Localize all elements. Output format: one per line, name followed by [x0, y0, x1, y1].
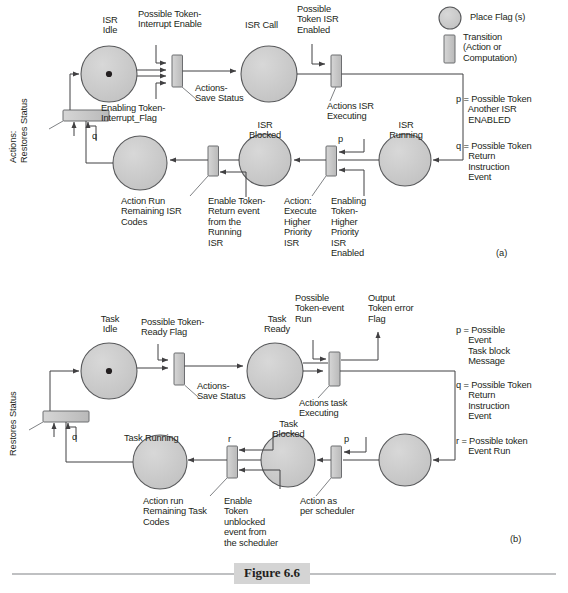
transition-interrupt-enable [172, 55, 183, 87]
transition-unblocked [227, 446, 238, 478]
label-possible-token-isr-enabled: Possible Token ISR Enabled [297, 4, 339, 35]
label-action-as-per-scheduler: Action as per scheduler [300, 496, 354, 517]
label-enable-token-unblocked: Enable Token unblocked event from the sc… [224, 496, 278, 548]
figure-page: ISR Idle Possible Token- Interrupt Enabl… [0, 0, 568, 593]
place-isr-remaining [113, 136, 167, 190]
place-task-exec-right [379, 434, 431, 486]
transition-task-executing [329, 352, 340, 386]
label-q-marker-b: q [72, 432, 77, 442]
label-possible-token-interrupt-enable: Possible Token- Interrupt Enable [138, 9, 202, 30]
label-task-ready: Task Ready [257, 314, 297, 335]
label-task-running: Task Running [124, 433, 179, 443]
legend-transition-label: Transition (Action or Computation) [463, 32, 517, 63]
place-isr-running [379, 134, 431, 186]
place-isr-idle [81, 46, 137, 102]
place-task-ready [247, 343, 303, 399]
transition-return-event [208, 146, 219, 176]
transition-ready-flag [174, 353, 185, 385]
label-actions-restores-status: Actions: Restores Status [8, 98, 29, 163]
legend-transition-swatch [444, 35, 455, 63]
label-possible-token-event-run: Possible Token-event Run [295, 293, 344, 324]
label-restores-status: Restores Status [8, 391, 19, 456]
place-task-blocked [261, 433, 315, 487]
label-enabling-token-interrupt-flag: Enabling Token- Interrupt_Flag [101, 103, 165, 124]
label-actions-save-status-a: Actions- Save Status [195, 83, 243, 104]
label-isr-running: ISR Running [382, 120, 430, 141]
figure-caption: Figure 6.6 [234, 563, 310, 584]
label-p-marker-b: p [344, 434, 349, 444]
label-p-marker-a: p [338, 134, 343, 144]
diagram-canvas [0, 0, 568, 593]
label-q-marker-a: q [92, 131, 97, 141]
legend-a-p: p = Possible Token Another ISR ENABLED [456, 94, 531, 125]
label-actions-task-executing: Actions task Executing [299, 398, 347, 419]
transition-restore-b [43, 411, 89, 422]
label-action-run-remaining-task: Action run Remaining Task Codes [143, 496, 207, 527]
label-output-token-error-flag: Output Token error Flag [368, 293, 413, 324]
legend-b-q: q = Possible Token Return Instruction Ev… [456, 380, 531, 422]
label-task-idle: Task Idle [90, 314, 130, 335]
label-actions-save-status-b: Actions- Save Status [197, 381, 245, 402]
label-isr-idle: ISR Idle [90, 15, 130, 36]
place-isr-blocked [239, 134, 291, 186]
panel-a-label: (a) [496, 248, 507, 258]
label-isr-blocked: ISR Blocked [241, 120, 289, 141]
panel-b-label: (b) [510, 534, 521, 544]
label-action-execute-higher-priority: Action: Execute Higher Priority ISR [284, 196, 317, 248]
legend-place-swatch [439, 7, 461, 29]
legend-a-q: q = Possible Token Return Instruction Ev… [456, 141, 531, 183]
legend-place-label: Place Flag (s) [470, 12, 525, 22]
legend-b-p: p = Possible Event Task block Message [456, 325, 510, 367]
label-enable-token-return-event: Enable Token- Return event from the Runn… [208, 196, 265, 248]
transition-scheduler [331, 446, 342, 478]
legend-b-r: r = Possible token Event Run [456, 436, 527, 457]
transition-higher-priority [326, 146, 337, 176]
label-task-blocked: Task Blocked [266, 419, 311, 440]
label-action-run-remaining-isr: Action Run Remaining ISR Codes [121, 196, 182, 227]
label-actions-isr-executing: Actions ISR Executing [327, 101, 374, 122]
label-possible-token-ready-flag: Possible Token- Ready Flag [141, 317, 204, 338]
place-isr-call [241, 46, 297, 102]
label-enabling-token-higher-priority: Enabling Token- Higher Priority ISR Enab… [331, 196, 366, 258]
label-r-marker-b: r [228, 434, 231, 444]
label-isr-call: ISR Call [245, 20, 278, 30]
transition-isr-enabled [331, 55, 342, 87]
